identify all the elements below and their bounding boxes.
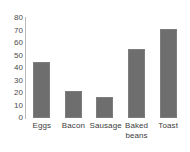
bar-slot	[58, 18, 89, 118]
bar-slot	[26, 18, 57, 118]
x-label-line: Bacon	[58, 121, 89, 131]
y-axis-tick-labels: 80 70 60 50 40 30 20 10 0	[0, 18, 23, 118]
x-label-toast: Toast	[153, 121, 184, 140]
bar-sausage	[96, 97, 113, 118]
x-label-sausage: Sausage	[89, 121, 120, 140]
y-tick-label: 30	[0, 77, 23, 85]
y-tick-label: 0	[0, 114, 23, 122]
bar-chart: 80 70 60 50 40 30 20 10 0 Eggs Bacon	[0, 0, 190, 152]
x-label-line: Baked	[121, 121, 152, 131]
bar-bacon	[65, 91, 82, 119]
y-tick-label: 60	[0, 39, 23, 47]
bar-eggs	[33, 62, 50, 118]
bar-slot	[153, 18, 184, 118]
x-label-line: beans	[121, 131, 152, 141]
x-label-eggs: Eggs	[26, 121, 57, 140]
y-tick-label: 80	[0, 14, 23, 22]
y-tick-label: 40	[0, 64, 23, 72]
x-label-line: Sausage	[89, 121, 120, 131]
bar-toast	[160, 29, 177, 118]
x-axis-category-labels: Eggs Bacon Sausage Baked beans Toast	[26, 121, 184, 140]
x-label-line: Toast	[153, 121, 184, 131]
x-label-baked-beans: Baked beans	[121, 121, 152, 140]
bar-slot	[121, 18, 152, 118]
y-tick-label: 70	[0, 27, 23, 35]
y-tick-label: 10	[0, 102, 23, 110]
x-label-bacon: Bacon	[58, 121, 89, 140]
bar-slot	[89, 18, 120, 118]
bar-baked-beans	[128, 49, 145, 118]
y-tick-label: 50	[0, 52, 23, 60]
bar-series	[26, 18, 184, 118]
x-label-line: Eggs	[26, 121, 57, 131]
y-tick-label: 20	[0, 89, 23, 97]
